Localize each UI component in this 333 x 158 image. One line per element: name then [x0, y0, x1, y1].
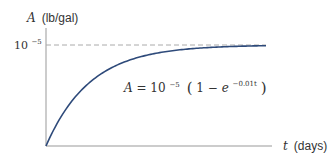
equation-annotation: A = 10 −5 ( 1 − e −0.01t ) — [123, 75, 267, 97]
y-axis-var: A — [26, 11, 36, 25]
y-axis-label: A (lb/gal) — [26, 11, 78, 25]
y-tick-label: 10 −5 — [14, 38, 42, 52]
y-axis-unit: (lb/gal) — [42, 11, 79, 25]
chart: A (lb/gal) 10 −5 A = 10 −5 ( 1 − e −0.01… — [0, 0, 333, 158]
series-line — [46, 46, 266, 146]
x-axis-unit: (days) — [294, 139, 327, 153]
x-axis-label: t (days) — [283, 139, 327, 153]
x-axis-var: t — [283, 139, 288, 153]
